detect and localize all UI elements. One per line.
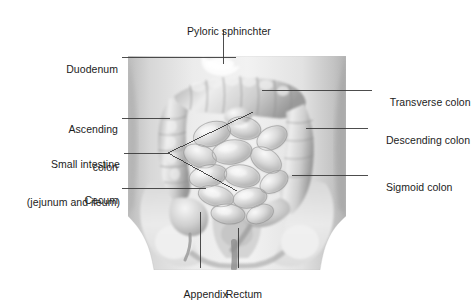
label-small-intestine-line1: Small intestine — [2, 158, 120, 171]
anatomy-figure: Pyloric sphinchter Duodenum Ascending co… — [0, 0, 476, 302]
label-duodenum-text: Duodenum — [66, 63, 118, 75]
label-pyloric-sphincter-text: Pyloric sphinchter — [187, 25, 271, 37]
label-transverse-colon-text: Transverse colon — [390, 96, 471, 108]
label-rectum: Rectum — [202, 275, 274, 302]
label-duodenum: Duodenum — [2, 50, 118, 88]
label-pyloric-sphincter: Pyloric sphinchter — [161, 12, 285, 50]
label-cecum-text: Cecum — [84, 194, 118, 206]
label-descending-colon: Descending colon — [374, 121, 476, 159]
label-sigmoid-colon: Sigmoid colon — [374, 168, 470, 206]
label-sigmoid-colon-text: Sigmoid colon — [386, 181, 453, 193]
label-descending-colon-text: Descending colon — [386, 134, 470, 146]
label-rectum-text: Rectum — [226, 288, 262, 300]
label-cecum: Cecum — [2, 181, 118, 219]
abdomen-illustration — [128, 56, 346, 270]
label-transverse-colon: Transverse colon — [378, 83, 476, 121]
abdomen-illustration-graphic — [128, 56, 346, 270]
